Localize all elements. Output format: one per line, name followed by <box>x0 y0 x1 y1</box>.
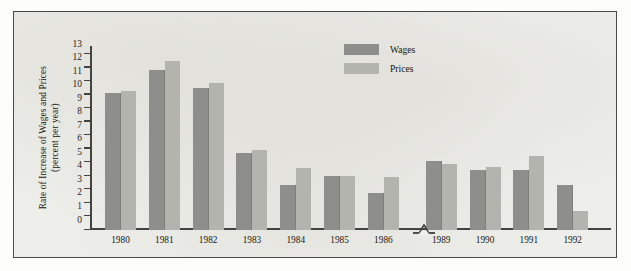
y-tick-label: 6 <box>77 135 82 145</box>
bar-group: 1990 <box>470 167 501 230</box>
bar-group: 1986 <box>368 177 399 230</box>
y-tick-label: 7 <box>77 121 82 131</box>
bar-prices <box>384 177 399 230</box>
bar-wages <box>368 193 384 230</box>
x-tick-label: 1982 <box>199 235 218 245</box>
bar-group: 1982 <box>193 83 224 230</box>
bar-wages <box>470 170 486 230</box>
y-tick-label: 5 <box>77 148 82 158</box>
y-tick <box>84 53 90 54</box>
y-tick <box>84 80 90 81</box>
axis-break-icon <box>413 223 435 235</box>
y-tick <box>84 66 90 67</box>
chart-frame: Rate of Increase of Wages and Prices (pe… <box>13 11 617 258</box>
y-tick-label: 4 <box>77 162 82 172</box>
bar-wages <box>557 185 573 230</box>
bar-prices <box>296 168 311 230</box>
x-tick-label: 1984 <box>286 235 305 245</box>
bar-wages <box>426 161 442 230</box>
y-axis-title-line-2: (percent per year) <box>50 104 60 173</box>
bar-prices <box>529 156 544 230</box>
y-tick <box>84 134 90 135</box>
bar-prices <box>573 211 588 230</box>
x-tick-label: 1992 <box>563 235 582 245</box>
bar-prices <box>340 176 355 230</box>
y-tick <box>84 93 90 94</box>
bar-wages <box>193 88 209 230</box>
y-tick-label: 0 <box>77 216 82 226</box>
bar-group: 1991 <box>513 156 544 230</box>
bar-group: 1992 <box>557 185 588 230</box>
bar-wages <box>513 170 529 230</box>
y-tick <box>84 147 90 148</box>
y-tick <box>84 120 90 121</box>
x-tick-label: 1986 <box>374 235 393 245</box>
bar-group: 1989 <box>426 161 457 230</box>
y-axis-line <box>90 46 92 230</box>
x-tick-label: 1981 <box>155 235 174 245</box>
bar-wages <box>236 153 252 230</box>
bar-group: 1985 <box>324 176 355 230</box>
plot-area: 012345678910111213 198019811982198319841… <box>90 46 611 230</box>
chart-page: Rate of Increase of Wages and Prices (pe… <box>0 0 631 271</box>
x-tick-label: 1990 <box>476 235 495 245</box>
bar-prices <box>121 91 136 230</box>
y-tick <box>84 202 90 203</box>
x-tick-label: 1989 <box>432 235 451 245</box>
bar-group: 1983 <box>236 150 267 230</box>
bar-prices <box>252 150 267 230</box>
y-tick-label: 1 <box>77 202 82 212</box>
bar-wages <box>280 185 296 230</box>
x-tick-label: 1991 <box>520 235 539 245</box>
bar-prices <box>209 83 224 230</box>
bar-prices <box>486 167 501 230</box>
y-tick-label: 8 <box>77 108 82 118</box>
x-tick-label: 1983 <box>243 235 262 245</box>
bar-group: 1984 <box>280 168 311 230</box>
bar-wages <box>105 93 121 230</box>
y-tick <box>84 175 90 176</box>
y-tick-label: 3 <box>77 175 82 185</box>
bar-wages <box>149 70 165 230</box>
bar-prices <box>165 61 180 230</box>
y-axis-title-line-1: Rate of Increase of Wages and Prices <box>38 66 48 209</box>
y-tick <box>84 215 90 216</box>
bar-group: 1980 <box>105 91 136 230</box>
y-axis-title: Rate of Increase of Wages and Prices (pe… <box>30 46 70 230</box>
y-tick-label: 11 <box>73 67 82 77</box>
y-tick <box>84 229 90 230</box>
y-tick <box>84 188 90 189</box>
y-tick-label: 13 <box>73 40 83 50</box>
x-tick-label: 1980 <box>111 235 130 245</box>
y-tick <box>84 107 90 108</box>
bar-prices <box>442 164 457 230</box>
bar-group: 1981 <box>149 61 180 230</box>
y-tick-label: 9 <box>77 94 82 104</box>
x-tick-label: 1985 <box>330 235 349 245</box>
y-tick <box>84 161 90 162</box>
y-tick-label: 2 <box>77 189 82 199</box>
bar-wages <box>324 176 340 230</box>
y-tick-label: 12 <box>73 53 83 63</box>
y-tick-label: 10 <box>73 80 83 90</box>
